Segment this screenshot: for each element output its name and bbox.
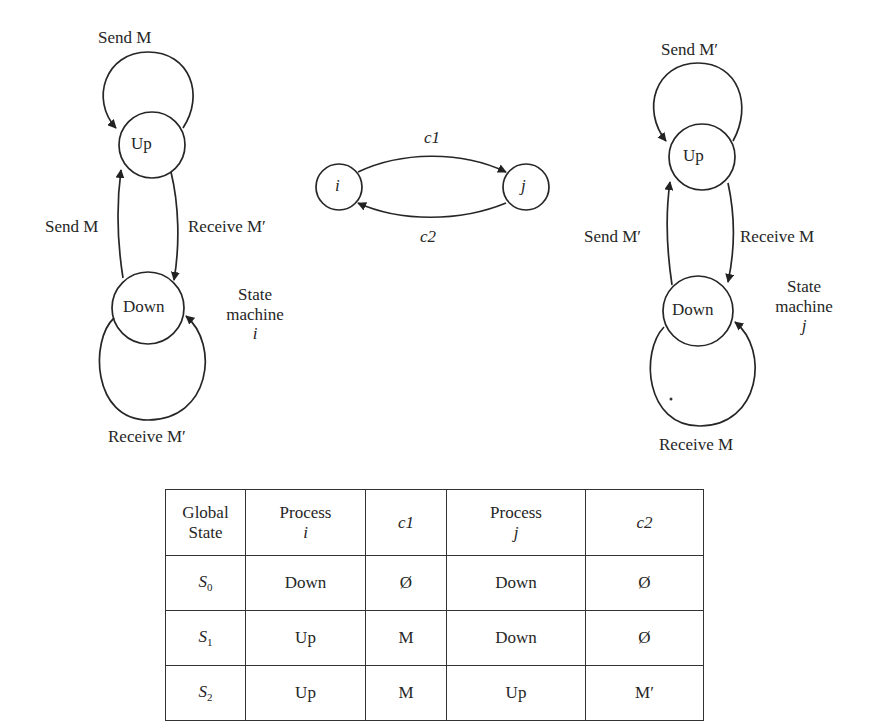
channel-c2-label: c2: [420, 227, 436, 247]
label-send-m-edge-i: Send M: [45, 217, 98, 237]
global-state-table: GlobalState Processi c1 Processj c2 S0 D…: [165, 489, 704, 721]
table-row: S2 Up M Up M′: [166, 666, 704, 721]
label-receive-mprime-loop-i: Receive M′: [108, 427, 186, 447]
caption-machine-i: State machine i: [213, 285, 297, 344]
caption-line1: State: [762, 277, 846, 297]
channel-c1-label: c1: [424, 128, 440, 148]
cell-process-i: Down: [246, 556, 366, 611]
label-receive-mprime-edge-i: Receive M′: [188, 217, 266, 237]
cell-process-j: Down: [447, 556, 586, 611]
header-c1: c1: [366, 490, 447, 556]
state-down-j-label: Down: [672, 300, 714, 320]
table-row: S0 Down Ø Down Ø: [166, 556, 704, 611]
header-global-state: GlobalState: [166, 490, 246, 556]
loop-receive-m-j: [650, 322, 755, 426]
channel-c1: [358, 156, 506, 172]
cell-process-i: Up: [246, 611, 366, 666]
label-send-m-loop-i: Send M: [98, 28, 151, 48]
cell-c1: M: [366, 611, 447, 666]
loop-send-m-i: [103, 52, 193, 128]
cell-c1: M: [366, 666, 447, 721]
channel-c2: [358, 203, 506, 217]
state-up-i-label: Up: [131, 134, 152, 154]
label-receive-m-edge-j: Receive M: [740, 227, 814, 247]
cell-c2: M′: [586, 666, 704, 721]
header-process-i: Processi: [246, 490, 366, 556]
loop-send-mprime-j: [654, 63, 742, 141]
header-c2: c2: [586, 490, 704, 556]
table-header-row: GlobalState Processi c1 Processj c2: [166, 490, 704, 556]
label-receive-m-loop-j: Receive M: [659, 435, 733, 455]
loop-receive-mprime-i: [99, 316, 205, 420]
state-up-i: [119, 112, 185, 178]
cell-process-j: Up: [447, 666, 586, 721]
header-process-j: Processj: [447, 490, 586, 556]
cell-c1: Ø: [366, 556, 447, 611]
edge-receive-mprime-i: [171, 172, 178, 280]
caption-machine-j: State machine j: [762, 277, 846, 336]
node-j: [503, 164, 549, 210]
state-up-j-label: Up: [683, 146, 704, 166]
speck: [670, 398, 673, 401]
cell-process-i: Up: [246, 666, 366, 721]
caption-var: j: [762, 316, 846, 336]
caption-line1: State: [213, 285, 297, 305]
caption-line2: machine: [762, 297, 846, 317]
state-down-i-label: Down: [123, 297, 165, 317]
edge-receive-m-j: [728, 183, 733, 282]
label-send-mprime-edge-j: Send M′: [584, 227, 641, 247]
cell-state: S1: [166, 611, 246, 666]
label-send-mprime-loop-j: Send M′: [661, 40, 718, 60]
node-j-label: j: [521, 176, 526, 196]
table-row: S1 Up M Down Ø: [166, 611, 704, 666]
cell-state: S0: [166, 556, 246, 611]
cell-state: S2: [166, 666, 246, 721]
caption-var: i: [213, 324, 297, 344]
edge-send-mprime-j: [667, 182, 672, 285]
caption-line2: machine: [213, 305, 297, 325]
edge-send-m-i: [118, 170, 123, 278]
cell-c2: Ø: [586, 611, 704, 666]
node-i-label: i: [335, 176, 340, 196]
cell-c2: Ø: [586, 556, 704, 611]
channel-diagram: [316, 156, 549, 217]
cell-process-j: Down: [447, 611, 586, 666]
